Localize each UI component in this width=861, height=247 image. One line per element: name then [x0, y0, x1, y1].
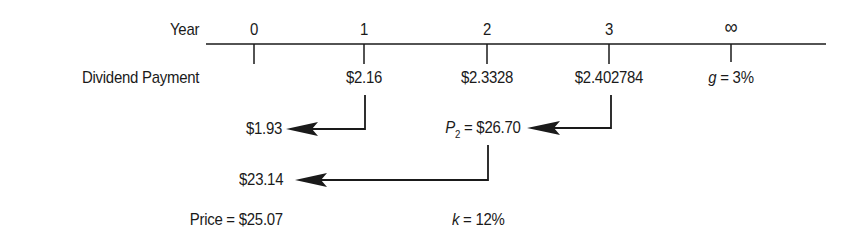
pv-year1-dividend: $1.93 [246, 119, 282, 139]
stock-price: Price = $25.07 [190, 210, 283, 230]
dividend-year3: $2.402784 [556, 68, 662, 88]
tick-label-2: 2 [474, 20, 500, 40]
discount-rate: k = 12% [452, 210, 505, 230]
dividend-discount-diagram: Year 0 1 2 3 ∞ Dividend Payment $2.16 $2… [0, 0, 861, 247]
p2-value: = $26.70 [461, 118, 521, 137]
arrow-discount-p2 [300, 145, 488, 180]
pv-p2: $23.14 [239, 170, 283, 190]
growth-rate: g = 3% [687, 68, 775, 88]
tick-label-1: 1 [351, 20, 377, 40]
row-label-dividend-payment: Dividend Payment [82, 68, 199, 88]
dividend-year1: $2.16 [320, 68, 408, 88]
axis-label-year: Year [170, 20, 199, 40]
p2-sub: 2 [455, 128, 460, 140]
tick-label-3: 3 [596, 20, 622, 40]
dividend-year2: $2.3328 [443, 68, 531, 88]
tick-label-0: 0 [241, 20, 267, 40]
terminal-price-p2: P2 = $26.70 [446, 118, 521, 139]
growth-value: = 3% [716, 68, 753, 87]
discount-value: = 12% [459, 210, 504, 229]
tick-label-infinity: ∞ [713, 17, 748, 37]
